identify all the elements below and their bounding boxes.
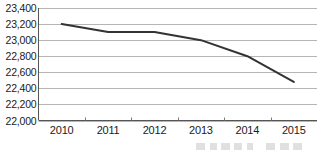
cropped-footer-text	[196, 143, 308, 150]
x-axis-tick-label: 2012	[131, 124, 177, 136]
x-axis-tick-label: 2011	[85, 124, 131, 136]
x-axis-tick-label: 2010	[39, 124, 85, 136]
x-axis-tick-label: 2014	[224, 124, 270, 136]
x-axis-tick-label: 2013	[178, 124, 224, 136]
x-axis-tick-label: 2015	[271, 124, 317, 136]
x-axis-labels: 201020112012201320142015	[0, 0, 317, 152]
line-chart: 23,40023,20023,00022,80022,60022,40022,2…	[0, 0, 317, 152]
